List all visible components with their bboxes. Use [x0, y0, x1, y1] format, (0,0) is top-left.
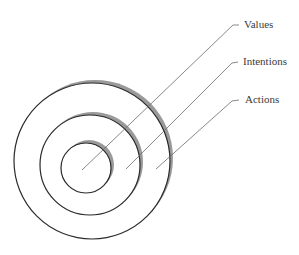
values-label: Values [244, 18, 273, 30]
values-ring [61, 143, 111, 193]
actions-label: Actions [245, 93, 279, 105]
concentric-circles-diagram: Values Intentions Actions [0, 0, 299, 255]
intentions-label: Intentions [243, 55, 287, 67]
diagram-canvas: Values Intentions Actions [0, 0, 299, 255]
